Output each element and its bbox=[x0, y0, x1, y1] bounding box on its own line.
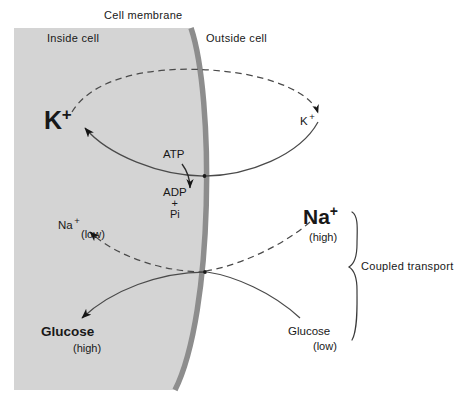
potassium-outside-symbol: K bbox=[300, 115, 308, 127]
glucose-outside-level: (low) bbox=[313, 341, 337, 353]
sodium-outside-symbol: Na bbox=[303, 205, 330, 228]
glucose-inside-level: (high) bbox=[73, 343, 101, 355]
sodium-inside-symbol: Na bbox=[58, 219, 73, 231]
potassium-efflux-path bbox=[204, 122, 318, 176]
glucose-inside-label: Glucose bbox=[41, 325, 94, 339]
potassium-inside-symbol: K bbox=[44, 106, 62, 134]
pump-hub bbox=[203, 174, 207, 178]
coupled-transport-brace bbox=[349, 212, 357, 340]
potassium-outside-charge: + bbox=[309, 111, 315, 122]
coupled-hub bbox=[203, 270, 207, 274]
sodium-outside-charge: + bbox=[330, 203, 338, 219]
cell-membrane-caption: Cell membrane bbox=[104, 10, 182, 22]
potassium-inside-label: K+ bbox=[44, 106, 72, 134]
sodium-inside-charge: + bbox=[74, 215, 80, 226]
pi-label: Pi bbox=[163, 209, 187, 219]
sodium-inside-level: (low) bbox=[81, 229, 105, 241]
glucose-influx-path-outer bbox=[207, 272, 300, 318]
sodium-inside-label: Na+ bbox=[58, 216, 80, 231]
adp-pi-label: ADP + Pi bbox=[163, 186, 187, 219]
energy-plus-sign: + bbox=[163, 198, 187, 208]
diagram-canvas bbox=[0, 0, 462, 420]
sodium-outside-level: (high) bbox=[309, 232, 337, 244]
glucose-outside-label: Glucose bbox=[288, 325, 330, 337]
cell-transport-diagram: Cell membrane Inside cell Outside cell K… bbox=[0, 0, 462, 420]
potassium-inside-charge: + bbox=[62, 105, 72, 124]
atp-label: ATP bbox=[163, 148, 185, 160]
inside-cell-caption: Inside cell bbox=[47, 33, 99, 45]
outside-cell-caption: Outside cell bbox=[206, 33, 267, 45]
potassium-outside-label: K+ bbox=[300, 112, 315, 127]
sodium-outside-label: Na+ bbox=[303, 204, 338, 228]
sodium-influx-path bbox=[206, 222, 310, 271]
coupled-transport-label: Coupled transport bbox=[361, 261, 454, 273]
